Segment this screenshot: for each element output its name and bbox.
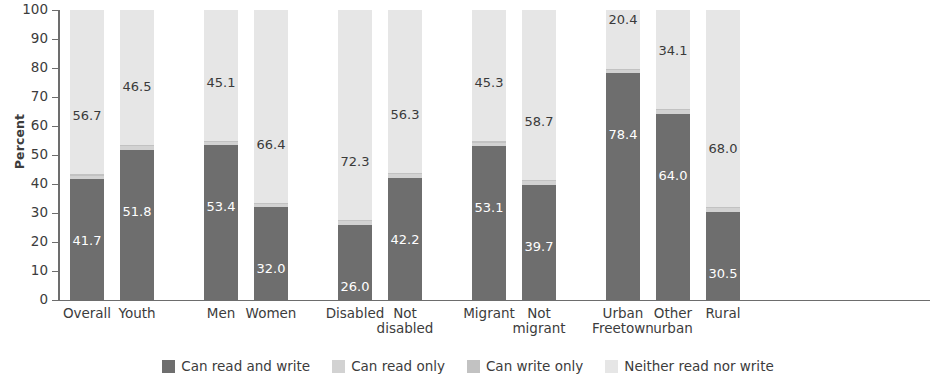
legend-label: Can read only [351,360,445,374]
bar-segment-neither-read-nor-write [706,10,740,207]
bar-segment-neither-read-nor-write [388,10,422,173]
bar-other-urban[interactable]: 64.034.1 [656,10,690,300]
legend-label: Neither read nor write [624,360,773,374]
data-label-neither-read-nor-write: 45.1 [207,76,236,89]
bar-segment-can-read-and-write [120,150,154,300]
bar-overall[interactable]: 41.756.7 [70,10,104,300]
y-tick-label: 10 [2,264,48,278]
data-label-neither-read-nor-write: 56.3 [391,108,420,121]
stacked-bar-chart: Percent 1009080706050403020100 41.756.75… [0,0,936,388]
bar-not-disabled[interactable]: 42.256.3 [388,10,422,300]
bar-segment-neither-read-nor-write [522,10,556,180]
legend-swatch [162,360,175,373]
legend-item[interactable]: Can read only [332,360,445,374]
x-axis-label: Women [223,306,319,321]
bar-urban-freetown[interactable]: 78.420.4 [606,10,640,300]
data-label-can-read-and-write: 51.8 [123,205,152,218]
bar-segment-can-read-only [120,146,154,150]
bar-segment-can-read-only [70,176,104,179]
data-label-neither-read-nor-write: 46.5 [123,80,152,93]
data-label-can-read-and-write: 53.1 [475,201,504,214]
plot-area: 41.756.751.846.553.445.132.066.426.072.3… [58,10,930,300]
bar-segment-can-write-only [70,174,104,175]
data-label-can-read-and-write: 64.0 [659,169,688,182]
bar-segment-can-write-only [522,180,556,181]
legend-label: Can write only [486,360,583,374]
data-label-neither-read-nor-write: 34.1 [659,44,688,57]
y-tick-label: 100 [2,3,48,17]
x-axis-label-line: migrant [491,321,587,336]
bar-segment-can-read-and-write [254,207,288,300]
y-tick-label: 20 [2,235,48,249]
data-label-can-read-and-write: 41.7 [73,234,102,247]
x-axis-label-line: Women [223,306,319,321]
bar-segment-can-write-only [254,203,288,204]
bar-not-migrant[interactable]: 39.758.7 [522,10,556,300]
data-label-can-read-and-write: 42.2 [391,233,420,246]
legend-swatch [467,360,480,373]
bar-segment-can-write-only [338,220,372,221]
bar-segment-can-read-and-write [706,212,740,300]
bar-segment-can-read-only [606,70,640,72]
data-label-neither-read-nor-write: 45.3 [475,76,504,89]
x-axis-label-line: Not [357,306,453,321]
bar-segment-can-write-only [204,141,238,142]
bar-women[interactable]: 32.066.4 [254,10,288,300]
x-axis-label-line: Not [491,306,587,321]
data-label-can-read-and-write: 39.7 [525,240,554,253]
bar-segment-can-write-only [388,173,422,174]
data-label-neither-read-nor-write: 20.4 [609,13,638,26]
bar-segment-can-read-and-write [656,114,690,300]
data-label-can-read-and-write: 53.4 [207,200,236,213]
y-tick-label: 70 [2,90,48,104]
x-axis-label: Youth [89,306,185,321]
data-label-can-read-and-write: 30.5 [709,267,738,280]
bar-migrant[interactable]: 53.145.3 [472,10,506,300]
bar-men[interactable]: 53.445.1 [204,10,238,300]
x-axis-label-line: Rural [675,306,771,321]
data-label-can-read-and-write: 32.0 [257,262,286,275]
bar-segment-can-read-and-write [472,146,506,300]
data-label-can-read-and-write: 78.4 [609,128,638,141]
x-axis-label: Notmigrant [491,306,587,336]
bar-segment-neither-read-nor-write [120,10,154,145]
data-label-neither-read-nor-write: 66.4 [257,138,286,151]
x-axis-label-line: Youth [89,306,185,321]
legend-item[interactable]: Can write only [467,360,583,374]
bar-segment-neither-read-nor-write [656,10,690,109]
legend-swatch [605,360,618,373]
legend-item[interactable]: Neither read nor write [605,360,773,374]
bar-segment-can-read-only [388,174,422,177]
bar-segment-can-write-only [472,141,506,142]
data-label-can-read-and-write: 26.0 [341,280,370,293]
bar-rural[interactable]: 30.568.0 [706,10,740,300]
legend-item[interactable]: Can read and write [162,360,310,374]
bar-segment-can-read-only [472,143,506,146]
bar-segment-can-write-only [706,207,740,208]
x-axis-label-line: disabled [357,321,453,336]
bar-segment-can-read-and-write [606,73,640,300]
legend-swatch [332,360,345,373]
bar-segment-neither-read-nor-write [70,10,104,174]
y-tick-label: 0 [2,293,48,307]
bar-segment-can-read-only [338,221,372,225]
bar-segment-can-write-only [656,109,690,110]
bar-youth[interactable]: 51.846.5 [120,10,154,300]
bar-segment-can-write-only [606,69,640,70]
bar-segment-can-write-only [120,145,154,146]
y-tick-label: 80 [2,61,48,75]
y-tick-label: 60 [2,119,48,133]
bar-segment-can-read-only [706,208,740,211]
bar-disabled[interactable]: 26.072.3 [338,10,372,300]
data-label-neither-read-nor-write: 58.7 [525,115,554,128]
y-tick-label: 50 [2,148,48,162]
y-tick-label: 30 [2,206,48,220]
bar-segment-can-read-only [656,110,690,114]
bar-segment-can-read-only [204,142,238,145]
bar-segment-neither-read-nor-write [338,10,372,220]
y-axis-ticks: 1009080706050403020100 [0,0,48,310]
data-label-neither-read-nor-write: 68.0 [709,142,738,155]
bar-segment-neither-read-nor-write [254,10,288,203]
bar-segment-can-read-only [522,181,556,184]
data-label-neither-read-nor-write: 56.7 [73,109,102,122]
